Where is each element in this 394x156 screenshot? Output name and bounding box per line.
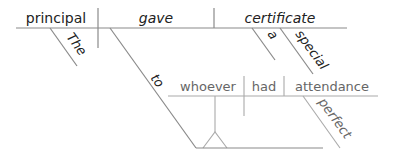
clause-pedestal-triangle — [203, 132, 227, 148]
word-to: to — [148, 71, 168, 90]
word-certificate: certificate — [245, 10, 316, 26]
word-had: had — [252, 79, 276, 94]
word-perfect: perfect — [315, 94, 356, 142]
sentence-diagram: principal gave certificate The to a spec… — [0, 0, 394, 156]
word-a: a — [265, 27, 282, 42]
word-attendance: attendance — [295, 79, 369, 94]
word-the: The — [64, 30, 90, 58]
word-whoever: whoever — [180, 79, 237, 94]
word-gave: gave — [139, 10, 173, 26]
word-principal: principal — [26, 10, 86, 26]
word-special: special — [293, 27, 332, 73]
